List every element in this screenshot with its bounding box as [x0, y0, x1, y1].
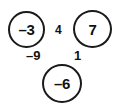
edge-label-top: 4: [55, 24, 62, 36]
circle-node-bottom-center[interactable]: –6: [42, 64, 82, 103]
edge-label-left: –9: [26, 49, 40, 62]
edge-label-right: 1: [74, 49, 81, 62]
circle-node-top-left-value: –3: [18, 22, 34, 37]
number-circle-diagram: –3 7 –6 4 –9 1: [0, 0, 119, 104]
circle-node-top-right[interactable]: 7: [73, 10, 112, 48]
circle-node-bottom-center-value: –6: [54, 76, 70, 91]
circle-node-top-left[interactable]: –3: [8, 11, 45, 48]
circle-node-top-right-value: 7: [88, 22, 96, 37]
